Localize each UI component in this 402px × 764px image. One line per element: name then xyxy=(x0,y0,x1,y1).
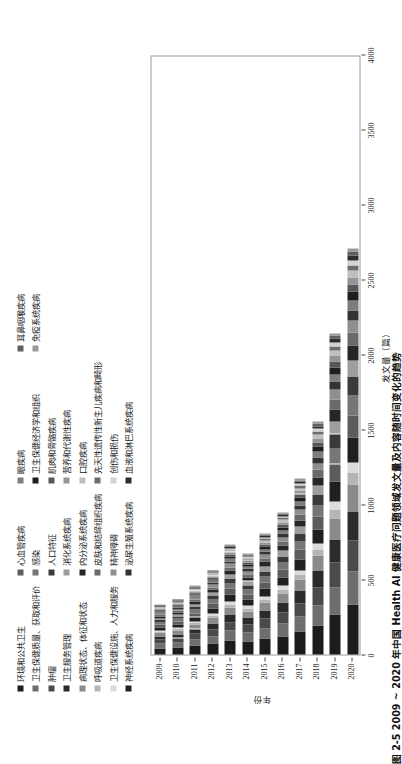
bar-segment[interactable] xyxy=(312,442,323,447)
bar-segment[interactable] xyxy=(347,395,358,415)
bar-segment[interactable] xyxy=(312,469,323,476)
bar-segment[interactable] xyxy=(329,448,340,464)
bar-row[interactable] xyxy=(277,54,288,654)
bar-segment[interactable] xyxy=(259,582,270,589)
bar-segment[interactable] xyxy=(277,545,288,550)
bar-segment[interactable] xyxy=(347,511,358,540)
bar-segment[interactable] xyxy=(294,632,305,655)
bar-segment[interactable] xyxy=(189,613,200,617)
bar-segment[interactable] xyxy=(172,638,183,642)
bar-segment[interactable] xyxy=(294,579,305,591)
bar-row[interactable] xyxy=(224,54,235,654)
bar-segment[interactable] xyxy=(329,509,340,518)
bar-segment[interactable] xyxy=(242,554,253,555)
legend-item[interactable]: 人口特征 xyxy=(43,493,59,575)
legend-item[interactable]: 环境和公共卫生 xyxy=(12,585,28,691)
bar-segment[interactable] xyxy=(312,587,323,605)
bar-segment[interactable] xyxy=(224,567,235,570)
bar-segment[interactable] xyxy=(294,520,305,526)
bar-segment[interactable] xyxy=(207,617,218,623)
legend-item[interactable]: 血液和淋巴系统疾病 xyxy=(121,361,137,483)
bar-segment[interactable] xyxy=(329,539,340,562)
bar-segment[interactable] xyxy=(207,623,218,629)
bar-segment[interactable] xyxy=(224,588,235,594)
bar-segment[interactable] xyxy=(207,636,218,643)
bar-segment[interactable] xyxy=(347,310,358,321)
bar-segment[interactable] xyxy=(294,501,305,505)
bar-segment[interactable] xyxy=(294,603,305,617)
legend-item[interactable]: 消化系统疾病 xyxy=(59,493,75,575)
bar-segment[interactable] xyxy=(259,571,270,576)
legend-item[interactable]: 先天性遗传性新生儿疾病和畸形 xyxy=(90,361,106,483)
bar-segment[interactable] xyxy=(329,434,340,448)
bar-segment[interactable] xyxy=(277,550,288,556)
bar-segment[interactable] xyxy=(154,648,165,654)
legend-item[interactable]: 卫生保健经济学和组织 xyxy=(28,361,44,483)
bar-segment[interactable] xyxy=(189,624,200,629)
bar-row[interactable] xyxy=(347,54,358,654)
bar-segment[interactable] xyxy=(277,636,288,654)
bar-segment[interactable] xyxy=(347,345,358,360)
bar-segment[interactable] xyxy=(329,346,340,350)
bar-segment[interactable] xyxy=(312,434,323,438)
bar-segment[interactable] xyxy=(329,421,340,434)
legend-item[interactable]: 病理状态、体征和状态 xyxy=(74,585,90,691)
bar-row[interactable] xyxy=(154,54,165,654)
bar-segment[interactable] xyxy=(347,270,358,276)
bar-segment[interactable] xyxy=(294,478,305,480)
legend-item[interactable]: 心血管疾病 xyxy=(12,493,28,575)
bar-segment[interactable] xyxy=(329,389,340,398)
bar-segment[interactable] xyxy=(294,590,305,602)
bar-segment[interactable] xyxy=(312,446,323,451)
bar-segment[interactable] xyxy=(347,484,358,511)
bar-segment[interactable] xyxy=(347,260,358,265)
bar-segment[interactable] xyxy=(347,376,358,394)
bar-segment[interactable] xyxy=(224,570,235,574)
bar-segment[interactable] xyxy=(329,481,340,500)
bar-segment[interactable] xyxy=(189,645,200,654)
bar-segment[interactable] xyxy=(277,556,288,562)
legend-item[interactable]: 泌尿生殖系统疾病 xyxy=(121,493,137,575)
bar-segment[interactable] xyxy=(347,265,358,271)
legend-item[interactable]: 免疫系统疾病 xyxy=(28,293,44,351)
bar-segment[interactable] xyxy=(347,320,358,332)
bar-segment[interactable] xyxy=(224,614,235,622)
bar-row[interactable] xyxy=(294,54,305,654)
bar-segment[interactable] xyxy=(259,561,270,565)
bar-segment[interactable] xyxy=(189,586,200,587)
bar-segment[interactable] xyxy=(259,576,270,582)
bar-segment[interactable] xyxy=(207,599,218,603)
bar-segment[interactable] xyxy=(312,494,323,504)
bar-row[interactable] xyxy=(189,54,200,654)
legend-item[interactable]: 创伤和损伤 xyxy=(105,361,121,483)
bar-segment[interactable] xyxy=(172,647,183,654)
legend-item[interactable]: 卫生保健质量、获取和评价 xyxy=(28,585,44,691)
bar-segment[interactable] xyxy=(172,634,183,638)
bar-segment[interactable] xyxy=(347,255,358,260)
bar-segment[interactable] xyxy=(329,399,340,409)
bar-segment[interactable] xyxy=(294,617,305,632)
bar-segment[interactable] xyxy=(277,512,288,513)
legend-item[interactable]: 感染 xyxy=(28,493,44,575)
bar-segment[interactable] xyxy=(329,342,340,346)
bar-segment[interactable] xyxy=(347,462,358,473)
bar-row[interactable] xyxy=(207,54,218,654)
bar-segment[interactable] xyxy=(312,605,323,625)
bar-segment[interactable] xyxy=(277,562,288,569)
bar-segment[interactable] xyxy=(154,636,165,640)
bar-segment[interactable] xyxy=(347,571,358,605)
bar-segment[interactable] xyxy=(172,642,183,647)
bar-segment[interactable] xyxy=(242,632,253,641)
bar-segment[interactable] xyxy=(277,533,288,537)
bar-row[interactable] xyxy=(242,54,253,654)
bar-segment[interactable] xyxy=(277,593,288,602)
bar-segment[interactable] xyxy=(242,594,253,600)
legend-item[interactable]: 耳鼻咽喉疾病 xyxy=(12,293,28,351)
bar-segment[interactable] xyxy=(224,545,235,546)
bar-segment[interactable] xyxy=(329,501,340,509)
bar-segment[interactable] xyxy=(277,569,288,577)
bar-segment[interactable] xyxy=(347,284,358,292)
bar-segment[interactable] xyxy=(242,599,253,605)
legend-item[interactable]: 卫生保健设施、人力和服务 xyxy=(105,585,121,691)
bar-segment[interactable] xyxy=(277,541,288,546)
